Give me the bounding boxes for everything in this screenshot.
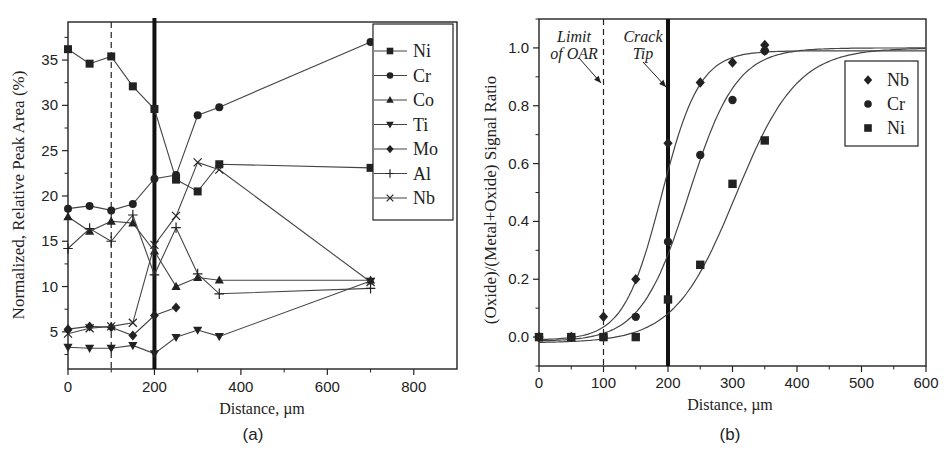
y-axis-label-a: Normalized, Relative Peak Area (%) bbox=[9, 71, 28, 320]
x-tick-label: 0 bbox=[535, 374, 543, 391]
square-marker bbox=[107, 52, 115, 60]
legend-label: Co bbox=[413, 90, 434, 110]
plus-marker bbox=[150, 270, 160, 280]
triangle-down-marker bbox=[85, 345, 94, 353]
y-tick-label: 0.2 bbox=[508, 270, 529, 287]
legend-label: Ni bbox=[413, 41, 431, 61]
legend-label: Al bbox=[413, 164, 431, 184]
circle-marker bbox=[215, 103, 223, 111]
axis-ticks-a: 02004006008005101520253035 bbox=[41, 37, 426, 395]
series-cr bbox=[64, 38, 375, 215]
x-tick-label: 300 bbox=[720, 374, 745, 391]
circle-marker bbox=[129, 200, 137, 208]
y-tick-label: 10 bbox=[41, 278, 58, 295]
square-marker bbox=[761, 136, 769, 144]
legend-label: Cr bbox=[887, 94, 905, 114]
y-tick-label: 15 bbox=[41, 232, 58, 249]
y-tick-label: 35 bbox=[41, 51, 58, 68]
circle-marker bbox=[761, 47, 769, 55]
series-mo bbox=[64, 302, 181, 340]
x-tick-label: 600 bbox=[315, 378, 340, 395]
series-cr bbox=[535, 47, 769, 342]
y-tick-label: 1.0 bbox=[508, 39, 529, 56]
plus-marker bbox=[171, 222, 181, 232]
chart-panel-b: 01002003004005006000.00.20.40.60.81.0 Li… bbox=[481, 19, 939, 444]
square-marker bbox=[728, 180, 736, 188]
y-tick-label: 5 bbox=[50, 323, 58, 340]
x-tick-label: 100 bbox=[591, 374, 616, 391]
legend-b: NbCrNi bbox=[845, 61, 918, 146]
y-tick-label: 25 bbox=[41, 142, 58, 159]
square-marker bbox=[696, 261, 704, 269]
annotations-b: Limitof OARCrackTip bbox=[550, 28, 666, 87]
y-tick-label: 0.6 bbox=[508, 155, 529, 172]
annotation-text: Crack bbox=[623, 28, 663, 45]
panel-label-a: (a) bbox=[243, 425, 264, 444]
triangle-up-marker bbox=[107, 217, 116, 225]
x-axis-label-b: Distance, µm bbox=[687, 396, 773, 414]
diamond-marker bbox=[85, 321, 94, 331]
series-ni bbox=[64, 45, 375, 195]
series-nb bbox=[64, 158, 375, 337]
x-tick-label: 400 bbox=[784, 374, 809, 391]
square-marker bbox=[567, 333, 575, 341]
triangle-down-marker bbox=[171, 334, 180, 342]
diamond-marker bbox=[663, 138, 672, 149]
square-marker bbox=[599, 333, 607, 341]
circle-marker bbox=[696, 151, 704, 159]
x-tick-label: 600 bbox=[913, 374, 938, 391]
x-tick-label: 500 bbox=[849, 374, 874, 391]
triangle-down-marker bbox=[150, 350, 159, 358]
reference-lines-a bbox=[111, 18, 154, 369]
legend-label: Ti bbox=[413, 115, 428, 135]
legend-label: Cr bbox=[413, 66, 431, 86]
legend-label: Mo bbox=[413, 139, 438, 159]
square-marker bbox=[150, 105, 158, 113]
x-tick-label: 200 bbox=[142, 378, 167, 395]
y-tick-label: 20 bbox=[41, 187, 58, 204]
square-marker bbox=[194, 187, 202, 195]
y-tick-label: 0.0 bbox=[508, 328, 529, 345]
annotation-oar-limit: Limitof OAR bbox=[550, 28, 601, 83]
legend-a: NiCrCoTiMoAlNb bbox=[373, 24, 453, 220]
circle-marker bbox=[664, 237, 672, 245]
square-marker bbox=[64, 45, 72, 53]
square-legend-marker bbox=[864, 124, 872, 132]
circle-legend-marker bbox=[864, 100, 872, 108]
circle-marker bbox=[632, 313, 640, 321]
chart-panel-a: 02004006008005101520253035 NiCrCoTiMoAlN… bbox=[9, 18, 457, 444]
circle-marker bbox=[64, 205, 72, 213]
triangle-up-marker bbox=[63, 212, 72, 220]
square-marker bbox=[664, 295, 672, 303]
annotation-text: Limit bbox=[556, 28, 591, 45]
x-marker bbox=[172, 212, 180, 220]
circle-marker bbox=[86, 202, 94, 210]
triangle-down-marker bbox=[107, 345, 116, 353]
y-tick-label: 0.8 bbox=[508, 97, 529, 114]
circle-marker bbox=[150, 175, 158, 183]
y-axis-label-b: (Oxide)/(Metal+Oxide) Signal Ratio bbox=[481, 76, 500, 324]
legend-label: Nb bbox=[887, 70, 909, 90]
series-ni bbox=[535, 136, 769, 341]
square-marker bbox=[129, 82, 137, 90]
legend-label: Nb bbox=[413, 188, 435, 208]
square-marker bbox=[632, 333, 640, 341]
x-tick-label: 400 bbox=[228, 378, 253, 395]
y-tick-label: 0.4 bbox=[508, 212, 529, 229]
circle-legend-marker bbox=[387, 72, 394, 79]
x-tick-label: 200 bbox=[655, 374, 680, 391]
diamond-marker bbox=[631, 274, 640, 285]
x-tick-label: 0 bbox=[64, 378, 72, 395]
circle-marker bbox=[107, 206, 115, 214]
annotation-crack-tip: CrackTip bbox=[623, 28, 666, 87]
square-marker bbox=[86, 60, 94, 68]
y-tick-label: 30 bbox=[41, 96, 58, 113]
square-marker bbox=[535, 333, 543, 341]
circle-marker bbox=[194, 111, 202, 119]
x-tick-label: 800 bbox=[401, 378, 426, 395]
x-axis-label-a: Distance, µm bbox=[219, 400, 305, 418]
diamond-marker bbox=[599, 312, 608, 323]
data-series-a bbox=[63, 38, 375, 358]
annotation-text: of OAR bbox=[550, 45, 598, 63]
square-legend-marker bbox=[387, 48, 394, 55]
